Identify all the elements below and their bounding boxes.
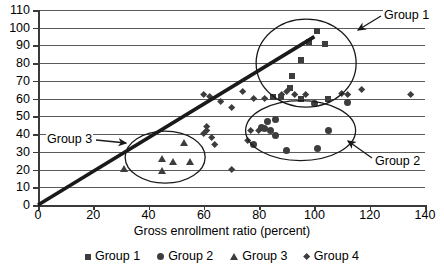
- data-point-square: [322, 41, 328, 47]
- x-tick-label: 40: [131, 209, 167, 222]
- legend-item-label: Group 2: [168, 250, 213, 263]
- y-tick-label: 30: [2, 146, 30, 158]
- group-2-annotation-label: Group 2: [374, 155, 421, 168]
- data-point-circle: [272, 116, 279, 123]
- y-tick-label: 60: [2, 93, 30, 105]
- circle-marker-icon: [157, 253, 164, 260]
- x-axis-line: [38, 205, 426, 207]
- data-point-circle: [272, 132, 279, 139]
- y-tick-label: 90: [2, 39, 30, 51]
- legend-item: Group 2: [157, 250, 213, 263]
- data-point-diamond: [228, 104, 236, 112]
- x-tick-label: 140: [407, 209, 443, 222]
- data-point-triangle: [120, 165, 128, 172]
- y-tick-label: 20: [2, 164, 30, 176]
- plot-area: [38, 10, 425, 205]
- legend-item-label: Group 4: [314, 250, 359, 263]
- data-point-square: [270, 94, 276, 100]
- group-1-annotation-label: Group 1: [383, 9, 430, 22]
- data-point-triangle: [158, 155, 166, 162]
- legend-item: Group 3: [230, 250, 287, 263]
- data-point-diamond: [247, 127, 255, 135]
- data-point-circle: [283, 147, 290, 154]
- x-tick-label: 100: [296, 209, 332, 222]
- data-point-square: [298, 96, 304, 102]
- y-tick-label: 40: [2, 128, 30, 140]
- x-tick-label: 120: [352, 209, 388, 222]
- data-point-triangle: [186, 158, 194, 165]
- legend-item-label: Group 1: [95, 250, 140, 263]
- data-point-diamond: [228, 166, 236, 174]
- data-point-diamond: [239, 88, 247, 96]
- x-axis-title: Gross enrollment ratio (percent): [0, 224, 444, 238]
- data-point-circle: [314, 145, 321, 152]
- data-point-square: [306, 39, 312, 45]
- data-point-diamond: [206, 93, 214, 101]
- y-tick-label: 70: [2, 75, 30, 87]
- data-point-circle: [264, 118, 271, 125]
- y-tick-label: 10: [2, 181, 30, 193]
- y-tick-label: 50: [2, 110, 30, 122]
- data-point-diamond: [217, 98, 225, 106]
- x-tick-label: 60: [186, 209, 222, 222]
- data-point-circle: [311, 100, 318, 107]
- data-point-square: [289, 73, 295, 79]
- data-point-diamond: [407, 91, 415, 99]
- data-point-triangle: [169, 158, 177, 165]
- data-point-circle: [250, 141, 257, 148]
- x-tick-label: 0: [20, 209, 56, 222]
- square-marker-icon: [85, 254, 91, 260]
- data-point-diamond: [358, 86, 366, 94]
- y-tick-label: 100: [2, 22, 30, 34]
- data-point-diamond: [211, 141, 219, 149]
- x-tick-label: 20: [75, 209, 111, 222]
- scatter-chart: 0102030405060708090100110 02040608010012…: [0, 0, 444, 264]
- x-tick-label: 80: [241, 209, 277, 222]
- data-point-triangle: [180, 139, 188, 146]
- data-point-diamond: [344, 91, 352, 99]
- diamond-marker-icon: [303, 253, 311, 261]
- legend-item: Group 4: [304, 250, 359, 263]
- y-tick-label: 110: [2, 4, 30, 16]
- data-point-square: [298, 57, 304, 63]
- triangle-marker-icon: [230, 253, 238, 260]
- legend-item-label: Group 3: [242, 250, 287, 263]
- data-point-triangle: [158, 167, 166, 174]
- legend-item: Group 1: [85, 250, 140, 263]
- data-point-square: [314, 28, 320, 34]
- data-point-circle: [325, 127, 332, 134]
- y-tick-label: 80: [2, 57, 30, 69]
- data-point-diamond: [261, 95, 269, 103]
- data-point-square: [325, 96, 331, 102]
- data-point-circle: [344, 99, 351, 106]
- chart-legend: Group 1Group 2Group 3Group 4: [0, 250, 444, 264]
- group-3-annotation-label: Group 3: [46, 133, 93, 146]
- data-point-diamond: [250, 95, 258, 103]
